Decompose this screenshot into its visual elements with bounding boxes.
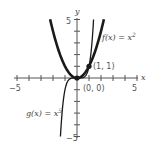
point-origin-label: (0, 0) (83, 84, 105, 93)
y-axis-label: y (74, 7, 80, 16)
function-graph: x y −5 5 5 −5 f(x) = x2 g(x) = x5 (1, 1)… (0, 0, 154, 147)
point-one-label: (1, 1) (93, 62, 115, 71)
x-axis-label: x (141, 73, 146, 82)
g-label: g(x) = x5 (26, 107, 62, 118)
y-min-label: −5 (66, 134, 78, 143)
x-max-label: 5 (132, 84, 137, 93)
y-max-label: 5 (66, 17, 71, 26)
f-label: f(x) = x2 (101, 31, 136, 42)
point-origin (74, 75, 79, 80)
x-min-label: −5 (9, 84, 21, 93)
point-one-one (86, 64, 91, 69)
